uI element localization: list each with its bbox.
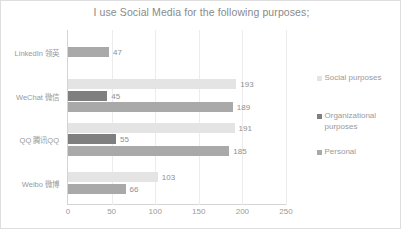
legend-swatch-icon bbox=[317, 76, 322, 81]
x-axis-tick-labels: 050100150200250 bbox=[67, 207, 286, 221]
bar-value-label: 103 bbox=[162, 173, 175, 182]
plot-area: 47193451891915518510366 bbox=[67, 30, 286, 205]
legend-item-social[interactable]: Social purposes bbox=[317, 73, 401, 84]
bar-wrapper: 191 bbox=[68, 123, 286, 133]
category-axis-labels: LinkedIn 领英WeChat 微信QQ 腾讯QQWeibo 微博 bbox=[1, 30, 63, 205]
x-axis-line bbox=[67, 204, 286, 205]
category-label: QQ 腾讯QQ bbox=[0, 134, 59, 145]
x-tick-label: 250 bbox=[279, 207, 292, 216]
bar-wrapper: 103 bbox=[68, 172, 286, 182]
legend-label: Personal bbox=[325, 147, 357, 158]
bar-organizational[interactable] bbox=[68, 91, 107, 101]
legend-item-organizational[interactable]: Organizational purposes bbox=[317, 111, 401, 132]
x-tick-label: 0 bbox=[66, 207, 70, 216]
category-label: Weibo 微博 bbox=[0, 178, 59, 189]
legend-swatch-icon bbox=[317, 114, 322, 119]
bar-personal[interactable] bbox=[68, 184, 126, 194]
bar-value-label: 189 bbox=[237, 103, 250, 112]
category-label: WeChat 微信 bbox=[0, 90, 59, 101]
category-label: LinkedIn 领英 bbox=[0, 46, 59, 57]
bar-wrapper: 55 bbox=[68, 134, 286, 144]
x-tick-label: 50 bbox=[107, 207, 116, 216]
bar-value-label: 191 bbox=[239, 123, 252, 132]
bar-social[interactable] bbox=[68, 172, 158, 182]
bar-wrapper: 47 bbox=[68, 47, 286, 57]
legend-label: Organizational purposes bbox=[325, 111, 401, 132]
bar-wrapper: 66 bbox=[68, 184, 286, 194]
bar-value-label: 185 bbox=[233, 146, 246, 155]
bar-wrapper: 185 bbox=[68, 146, 286, 156]
bar-value-label: 45 bbox=[111, 91, 120, 100]
bar-value-label: 47 bbox=[113, 47, 122, 56]
legend-swatch-icon bbox=[317, 150, 322, 155]
legend-label: Social purposes bbox=[325, 73, 382, 84]
bar-social[interactable] bbox=[68, 123, 235, 133]
x-tick-label: 150 bbox=[192, 207, 205, 216]
bar-personal[interactable] bbox=[68, 146, 229, 156]
bar-organizational[interactable] bbox=[68, 134, 116, 144]
bar-wrapper: 45 bbox=[68, 91, 286, 101]
bar-personal[interactable] bbox=[68, 102, 233, 112]
bar-social[interactable] bbox=[68, 79, 236, 89]
x-tick-label: 200 bbox=[236, 207, 249, 216]
legend-item-personal[interactable]: Personal bbox=[317, 147, 401, 158]
bar-value-label: 193 bbox=[240, 80, 253, 89]
x-tick-label: 100 bbox=[149, 207, 162, 216]
bar-value-label: 55 bbox=[120, 135, 129, 144]
bar-personal[interactable] bbox=[68, 47, 109, 57]
bar-value-label: 66 bbox=[130, 184, 139, 193]
chart-container: I use Social Media for the following pur… bbox=[0, 0, 401, 229]
gridline bbox=[286, 30, 287, 205]
bar-wrapper: 189 bbox=[68, 102, 286, 112]
chart-title: I use Social Media for the following pur… bbox=[1, 6, 401, 18]
bar-wrapper: 193 bbox=[68, 79, 286, 89]
